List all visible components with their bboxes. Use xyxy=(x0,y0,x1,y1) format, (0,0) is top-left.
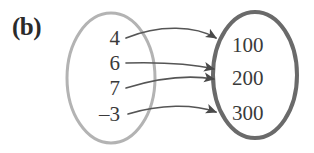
domain-element-neg3: –3 xyxy=(84,104,120,125)
codomain-element-100: 100 xyxy=(232,35,264,56)
domain-element-6: 6 xyxy=(92,53,120,74)
arrow-6-to-200 xyxy=(126,63,214,69)
codomain-element-300: 300 xyxy=(232,103,264,124)
domain-element-4: 4 xyxy=(92,28,120,49)
codomain-element-200: 200 xyxy=(232,68,264,89)
diagram-canvas xyxy=(0,0,314,153)
arrow-7-to-200 xyxy=(126,77,214,88)
domain-element-7: 7 xyxy=(92,78,120,99)
arrow-neg3-to-300 xyxy=(128,106,216,114)
mapping-diagram: (b) 4 6 7 –3 100 200 300 xyxy=(0,0,314,153)
